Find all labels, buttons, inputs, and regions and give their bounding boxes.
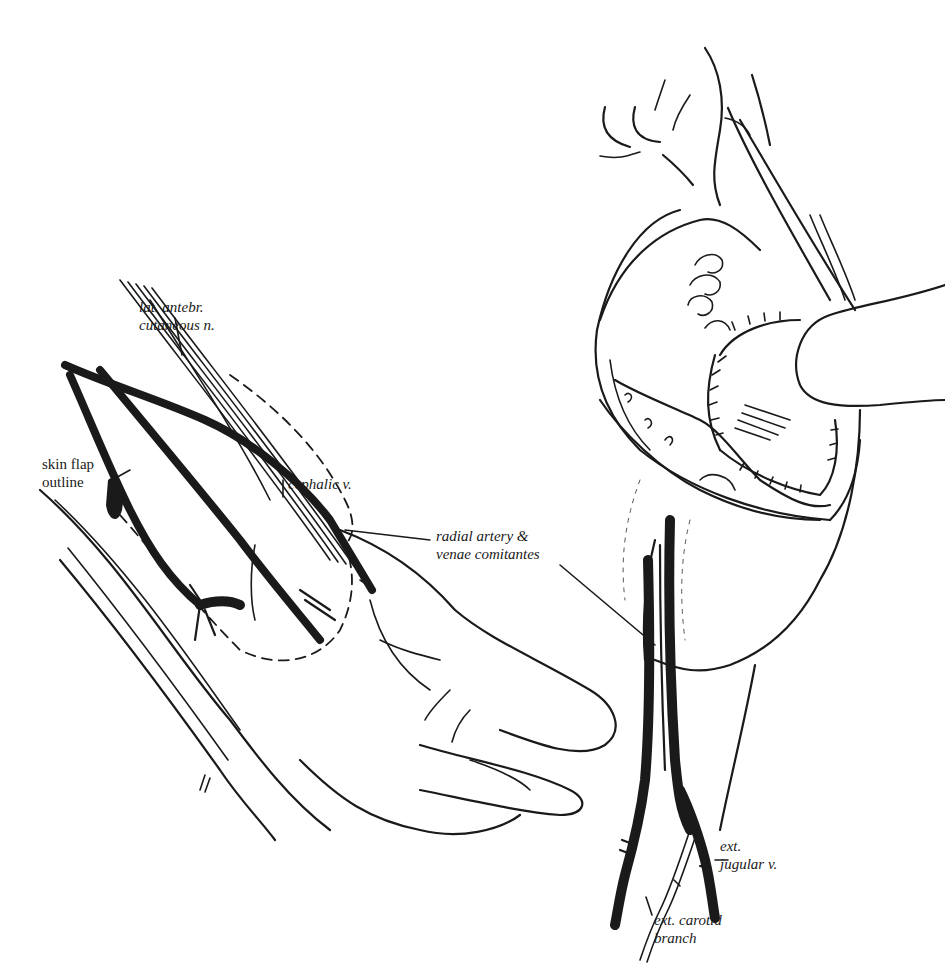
oral-neck-drawing bbox=[596, 48, 945, 962]
illustration-canvas bbox=[0, 0, 945, 971]
label-lat-antebr-cutaneous-nerve: lat. antebr. cutaneous n. bbox=[139, 298, 215, 334]
label-cephalic-vein: cephalic v. bbox=[288, 475, 352, 493]
label-skin-flap-outline: skin flap outline bbox=[42, 455, 94, 491]
label-radial-artery-venae-comitantes: radial artery & venae comitantes bbox=[436, 527, 540, 563]
label-ext-jugular-vein: ext. jugular v. bbox=[720, 837, 777, 873]
label-ext-carotid-branch: ext. carotid branch bbox=[654, 911, 722, 947]
